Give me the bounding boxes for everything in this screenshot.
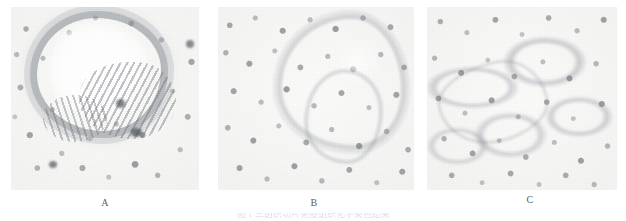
micrograph-image-b	[218, 7, 414, 190]
micrograph-image-a	[11, 7, 199, 190]
panel-label-a: A	[95, 197, 115, 209]
figure-caption-strip: 图 1 三组织切片免疫组织化学染色结果	[0, 213, 626, 221]
figure-container: A B C 图 1 三组织切片免疫组织化学染色结果	[0, 0, 626, 221]
panel-c[interactable]	[427, 7, 617, 190]
vignette-c	[427, 7, 617, 190]
vignette-b	[218, 7, 414, 190]
panel-b[interactable]	[218, 7, 414, 190]
panel-a[interactable]	[11, 7, 199, 190]
figure-caption-text: 图 1 三组织切片免疫组织化学染色结果	[0, 213, 626, 220]
panel-label-c: C	[520, 194, 540, 206]
micrograph-image-c	[427, 7, 617, 190]
vignette-a	[11, 7, 199, 190]
panel-label-b: B	[304, 197, 324, 209]
